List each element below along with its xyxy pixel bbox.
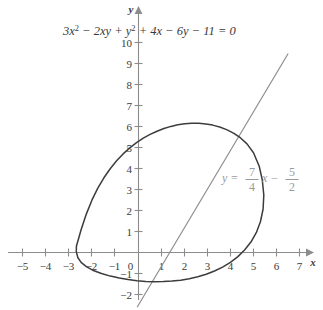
x-tick-label: −5: [17, 260, 29, 272]
y-tick-label: 9: [127, 58, 133, 70]
conic-plot-figure: −5 −4 −3 −2 −1 0 1 2 3 4 5 6 7 −2 −1 1 2…: [0, 0, 323, 310]
x-tick-label: 5: [251, 260, 257, 272]
y-tick-label: 3: [127, 184, 133, 196]
conic-equation-label: 3x2 − 2xy + y2 + 4x − 6y − 11 = 0: [62, 23, 237, 38]
x-tick-label: 7: [297, 260, 303, 272]
y-tick-label: 7: [127, 100, 133, 112]
x-tick-label: 3: [205, 260, 211, 272]
y-tick-label: 4: [127, 163, 133, 175]
y-tick-label: 2: [127, 205, 133, 217]
y-tick-label: 1: [127, 226, 133, 238]
x-tick-label: −1: [109, 260, 121, 272]
x-tick-label: 2: [182, 260, 188, 272]
conic-ellipse-curve: [76, 123, 263, 281]
line-eq-numerator-2: 5: [289, 165, 295, 179]
x-tick-label: −4: [40, 260, 52, 272]
y-tick-label: 8: [127, 79, 133, 91]
plot-canvas: −5 −4 −3 −2 −1 0 1 2 3 4 5 6 7 −2 −1 1 2…: [0, 0, 323, 310]
y-axis-label: y: [127, 3, 134, 15]
y-tick-label: 10: [121, 37, 133, 49]
line-eq-numerator-1: 7: [249, 165, 255, 179]
y-tick-label: 6: [127, 121, 133, 133]
line-eq-mid: x −: [261, 171, 278, 185]
eq-term-4: + 4x − 6y − 11 = 0: [136, 24, 237, 38]
line-eq-denominator-1: 4: [249, 180, 255, 194]
eq-term-2: − 2xy +: [79, 24, 126, 38]
eq-term-1: 3x: [62, 24, 75, 38]
x-tick-label: 6: [274, 260, 280, 272]
x-tick-label: −3: [63, 260, 75, 272]
y-axis-arrow-icon: [135, 6, 143, 14]
line-eq-lhs: y =: [221, 171, 238, 185]
line-eq-denominator-2: 2: [289, 180, 295, 194]
x-axis-label: x: [309, 256, 316, 268]
y-tick-label: −2: [120, 289, 132, 301]
y-tick-label: −1: [120, 268, 132, 280]
